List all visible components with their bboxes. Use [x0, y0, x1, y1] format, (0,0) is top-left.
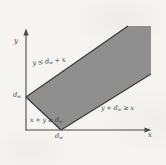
figure-canvas: y x dw dw y ≤ dw + x y + dw ≥ x x + y ≥ … [0, 0, 166, 165]
y-tick-subscript: w [17, 94, 21, 99]
lower-label-pre: y + d [101, 104, 117, 112]
y-axis-tick-label: dw [13, 92, 21, 99]
lower-line-constraint-label: y + dw ≥ x [101, 105, 134, 112]
x-axis-label: x [148, 132, 152, 139]
y-axis-label: y [14, 38, 18, 45]
origin-label-pre: x + y ≥ d [30, 116, 59, 124]
lower-label-post: ≥ x [121, 104, 133, 112]
y-axis-arrow-icon [23, 29, 28, 36]
upper-label-pre: y ≤ d [32, 57, 49, 67]
origin-constraint-label: x + y ≥ dw [30, 117, 63, 124]
upper-label-post: + x [52, 56, 65, 65]
x-tick-subscript: w [59, 135, 63, 140]
origin-label-subscript: w [59, 119, 63, 124]
x-axis-tick-label: dw [55, 133, 63, 140]
diagram-svg [0, 0, 166, 165]
